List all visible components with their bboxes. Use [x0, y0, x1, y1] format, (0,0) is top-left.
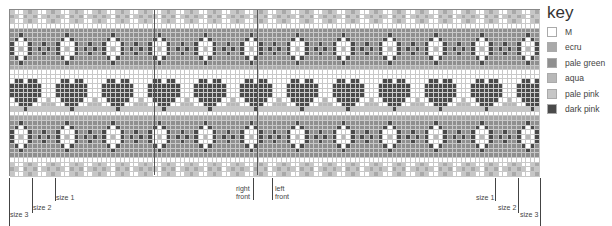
size-marker-label: size 2	[498, 204, 516, 212]
size-marker-label: leftfront	[275, 185, 289, 201]
key-item-label: M	[565, 27, 572, 37]
color-swatch	[547, 42, 557, 52]
chart-cell	[535, 172, 540, 177]
key-item: dark pink	[547, 102, 605, 118]
key-item: M	[547, 24, 605, 40]
color-swatch	[547, 58, 557, 68]
color-swatch	[547, 73, 557, 83]
key-item-label: aqua	[565, 73, 584, 83]
color-key: key Mecrupale greenaquapale pinkdark pin…	[547, 4, 605, 117]
size-marker-label: size 3	[520, 211, 538, 219]
size-marker-line	[253, 178, 254, 200]
size-marker-label: size 1	[476, 194, 494, 202]
color-swatch	[547, 89, 557, 99]
size-marker-line	[495, 178, 496, 201]
key-item-label: ecru	[565, 42, 582, 52]
key-item-label: pale green	[565, 58, 605, 68]
key-title: key	[547, 4, 605, 22]
colorwork-chart	[9, 9, 540, 176]
size-marker-label: rightfront	[236, 185, 250, 201]
chart-grid	[10, 10, 540, 177]
size-marker-line	[272, 178, 273, 200]
color-swatch	[547, 27, 557, 37]
key-item-label: pale pink	[565, 89, 599, 99]
key-item: ecru	[547, 40, 605, 56]
size-marker-line	[540, 178, 541, 226]
size-marker-label: size 1	[56, 194, 74, 202]
center-divider-line	[154, 10, 155, 175]
key-item-label: dark pink	[565, 104, 600, 114]
key-item: pale pink	[547, 86, 605, 102]
size-marker-line	[518, 178, 519, 213]
key-item: pale green	[547, 55, 605, 71]
size-marker-label: size 2	[33, 204, 51, 212]
center-divider-line	[257, 10, 258, 175]
key-item: aqua	[547, 71, 605, 87]
color-swatch	[547, 104, 557, 114]
size-marker-label: size 3	[10, 211, 28, 219]
key-items: Mecrupale greenaquapale pinkdark pink	[547, 24, 605, 117]
